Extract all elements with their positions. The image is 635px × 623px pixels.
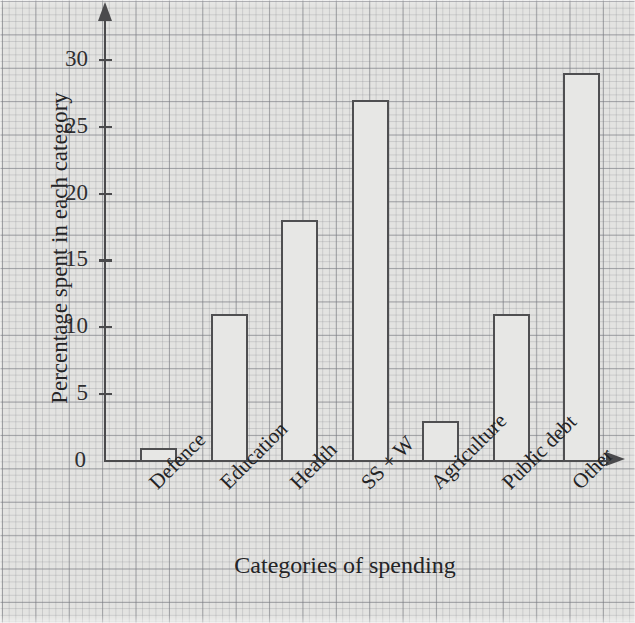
bar-health bbox=[281, 220, 318, 462]
y-tick-30 bbox=[99, 59, 112, 61]
x-axis-title: Categories of spending bbox=[105, 552, 585, 579]
y-tick-25 bbox=[99, 126, 112, 128]
bar-other bbox=[563, 73, 600, 462]
y-axis-title: Percentage spent in each category bbox=[47, 38, 73, 458]
y-tick-15 bbox=[99, 259, 112, 261]
y-axis-line bbox=[104, 18, 106, 462]
bar-ss-w bbox=[352, 100, 389, 462]
bar-chart: 051015202530 DefenceEducationHealthSS + … bbox=[0, 0, 635, 623]
bar-education bbox=[211, 314, 248, 462]
y-axis-arrow-icon bbox=[98, 2, 112, 21]
y-tick-10 bbox=[99, 326, 112, 328]
graph-paper-sheet: 051015202530 DefenceEducationHealthSS + … bbox=[0, 0, 635, 623]
y-tick-5 bbox=[99, 393, 112, 395]
y-tick-20 bbox=[99, 193, 112, 195]
